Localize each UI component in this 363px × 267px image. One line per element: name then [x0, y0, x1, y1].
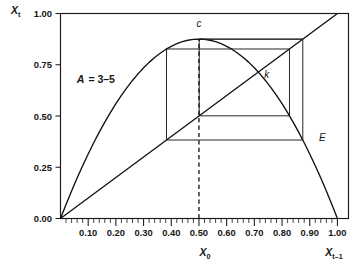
x-tick-label-0.90: 0.90 — [301, 227, 319, 238]
y-tick-label-4: 0.25 — [34, 162, 52, 173]
y-axis-title: Xt — [10, 4, 21, 19]
y-tick-label-3: 0.50 — [34, 111, 52, 122]
x-axis-right-title-sub: t–1 — [332, 252, 342, 261]
parameter-annotation-symbol: A — [76, 73, 85, 85]
x-axis-right-title: Xt–1 — [324, 246, 342, 261]
parameter-annotation-value: = 3–5 — [88, 73, 115, 85]
parameter-annotation: A= 3–5 — [76, 73, 115, 85]
y-axis-tick-labels: 1.00 0.75 0.50 0.25 0.00 — [34, 8, 52, 224]
y-axis-title-sub: t — [18, 10, 21, 19]
x-axis-center-title-sub: 0 — [207, 252, 211, 261]
x-tick-label-0.50: 0.50 — [190, 227, 208, 238]
x-axis-center-title: X0 — [198, 246, 210, 261]
point-label-c: c — [196, 18, 201, 29]
y-tick-label-5: 0.00 — [34, 213, 52, 224]
y-tick-label-2: 0.75 — [34, 59, 52, 70]
point-label-E: E — [319, 132, 326, 143]
x-tick-label-0.70: 0.70 — [245, 227, 263, 238]
x-tick-label-0.20: 0.20 — [107, 227, 125, 238]
x-tick-label-1.00: 1.00 — [328, 227, 346, 238]
x-axis-ticks — [66, 219, 337, 227]
x-tick-label-0.60: 0.60 — [218, 227, 236, 238]
x-tick-label-0.10: 0.10 — [79, 227, 97, 238]
y-tick-label-1: 1.00 — [34, 8, 52, 19]
x-axis-tick-labels: 0.100.200.300.400.500.600.700.800.901.00 — [79, 227, 346, 238]
logistic-map-cobweb-chart: 1.00 0.75 0.50 0.25 0.00 Xt 0.100.200.30… — [0, 0, 363, 267]
x-tick-label-0.40: 0.40 — [162, 227, 180, 238]
chart-figure: 1.00 0.75 0.50 0.25 0.00 Xt 0.100.200.30… — [0, 0, 363, 267]
x-tick-label-0.80: 0.80 — [273, 227, 291, 238]
point-label-k: k — [264, 69, 270, 80]
y-axis-ticks — [56, 14, 61, 219]
x-tick-label-0.30: 0.30 — [134, 227, 152, 238]
